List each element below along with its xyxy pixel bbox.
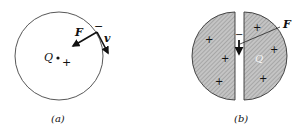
nucleus-dot xyxy=(56,56,59,59)
right-half-conductor xyxy=(244,12,287,100)
plus-sign: + xyxy=(221,53,229,64)
diagram-canvas: Q + − F v (a) + + + + + + Q − F (b) xyxy=(0,0,304,130)
force-label: F xyxy=(74,26,84,39)
orbit-circle xyxy=(15,12,103,100)
force-label: F xyxy=(282,18,292,31)
electron-sign: − xyxy=(235,29,243,40)
caption-a: (a) xyxy=(51,113,65,124)
plus-sign: + xyxy=(205,34,213,45)
caption-b: (b) xyxy=(234,113,248,124)
plus-sign: + xyxy=(270,44,278,55)
charge-label-q: Q xyxy=(255,53,263,64)
plus-sign: + xyxy=(62,56,71,69)
electron-sign: − xyxy=(94,20,103,33)
panel-a: Q + − F v (a) xyxy=(15,12,111,124)
charge-label-q: Q xyxy=(44,51,53,64)
plus-sign: + xyxy=(259,73,267,84)
plus-sign: + xyxy=(215,76,223,87)
velocity-label: v xyxy=(104,32,111,45)
plus-sign: + xyxy=(253,22,261,33)
panel-b: + + + + + + Q − F (b) xyxy=(192,12,292,124)
